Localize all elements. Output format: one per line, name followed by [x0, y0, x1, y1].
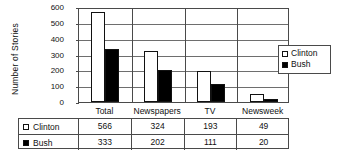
x-axis-category-labels: TotalNewspapersTVNewsweek [78, 104, 289, 118]
plot-area [78, 8, 289, 103]
bar-bush-newsweek [264, 99, 278, 102]
y-axis-tick-mark [76, 71, 79, 72]
table-row-label-text: Clinton [33, 122, 59, 132]
chart-figure: Number of Stories 0100200300400500600 To… [0, 0, 345, 158]
filled-square-icon [23, 140, 29, 146]
bar-bush-newspapers [158, 70, 172, 102]
table-cell-clinton-tv: 193 [185, 119, 238, 134]
table-cell-bush-newspapers: 202 [132, 135, 185, 150]
table-row-label-text: Bush [33, 138, 52, 148]
table-row: Bush33320211120 [19, 134, 288, 150]
table-row-label-clinton: Clinton [19, 119, 79, 134]
y-axis-tick-label: 300 [30, 52, 64, 60]
y-axis-tick-mark [76, 24, 79, 25]
data-table: Clinton56632419349Bush33320211120 [18, 118, 289, 149]
table-row-label-bush: Bush [19, 135, 79, 150]
bar-bush-tv [211, 84, 225, 102]
legend-item-clinton: Clinton [282, 48, 328, 59]
x-axis-label-total: Total [78, 104, 131, 118]
table-cell-bush-newsweek: 20 [237, 135, 290, 150]
table-cell-bush-tv: 111 [185, 135, 238, 150]
table-cell-clinton-newsweek: 49 [237, 119, 290, 134]
hollow-square-icon [282, 51, 288, 57]
y-axis-tick-mark [76, 40, 79, 41]
table-cell-clinton-newspapers: 324 [132, 119, 185, 134]
table-cell-bush-total: 333 [79, 135, 132, 150]
y-axis-tick-label: 0 [30, 99, 64, 107]
table-cell-clinton-total: 566 [79, 119, 132, 134]
bar-clinton-newsweek [250, 94, 264, 102]
category-separator [132, 9, 133, 102]
y-axis-tick-mark [76, 87, 79, 88]
y-axis-tick-label: 200 [30, 67, 64, 75]
filled-square-icon [282, 62, 288, 68]
category-separator [185, 9, 186, 102]
y-axis-tick-label: 600 [30, 4, 64, 12]
legend-item-label: Clinton [291, 48, 317, 59]
x-axis-label-newspapers: Newspapers [131, 104, 184, 118]
bar-clinton-total [91, 12, 105, 102]
chart-legend: ClintonBush [278, 45, 331, 74]
bar-clinton-tv [197, 71, 211, 102]
gridline [79, 24, 288, 25]
bar-clinton-newspapers [144, 51, 158, 102]
y-axis-tick-mark [76, 8, 79, 9]
y-axis-tick-label: 500 [30, 20, 64, 28]
y-axis-tick-mark [76, 56, 79, 57]
y-axis-title: Number of Stories [10, 11, 20, 107]
legend-item-bush: Bush [282, 59, 328, 70]
y-axis-tick-label: 100 [30, 83, 64, 91]
table-row: Clinton56632419349 [19, 119, 288, 134]
x-axis-label-newsweek: Newsweek [236, 104, 289, 118]
gridline [79, 40, 288, 41]
bar-bush-total [105, 49, 119, 102]
category-separator [237, 9, 238, 102]
y-axis-tick-label: 400 [30, 36, 64, 44]
legend-item-label: Bush [291, 59, 310, 70]
hollow-square-icon [23, 124, 29, 130]
x-axis-label-tv: TV [184, 104, 237, 118]
